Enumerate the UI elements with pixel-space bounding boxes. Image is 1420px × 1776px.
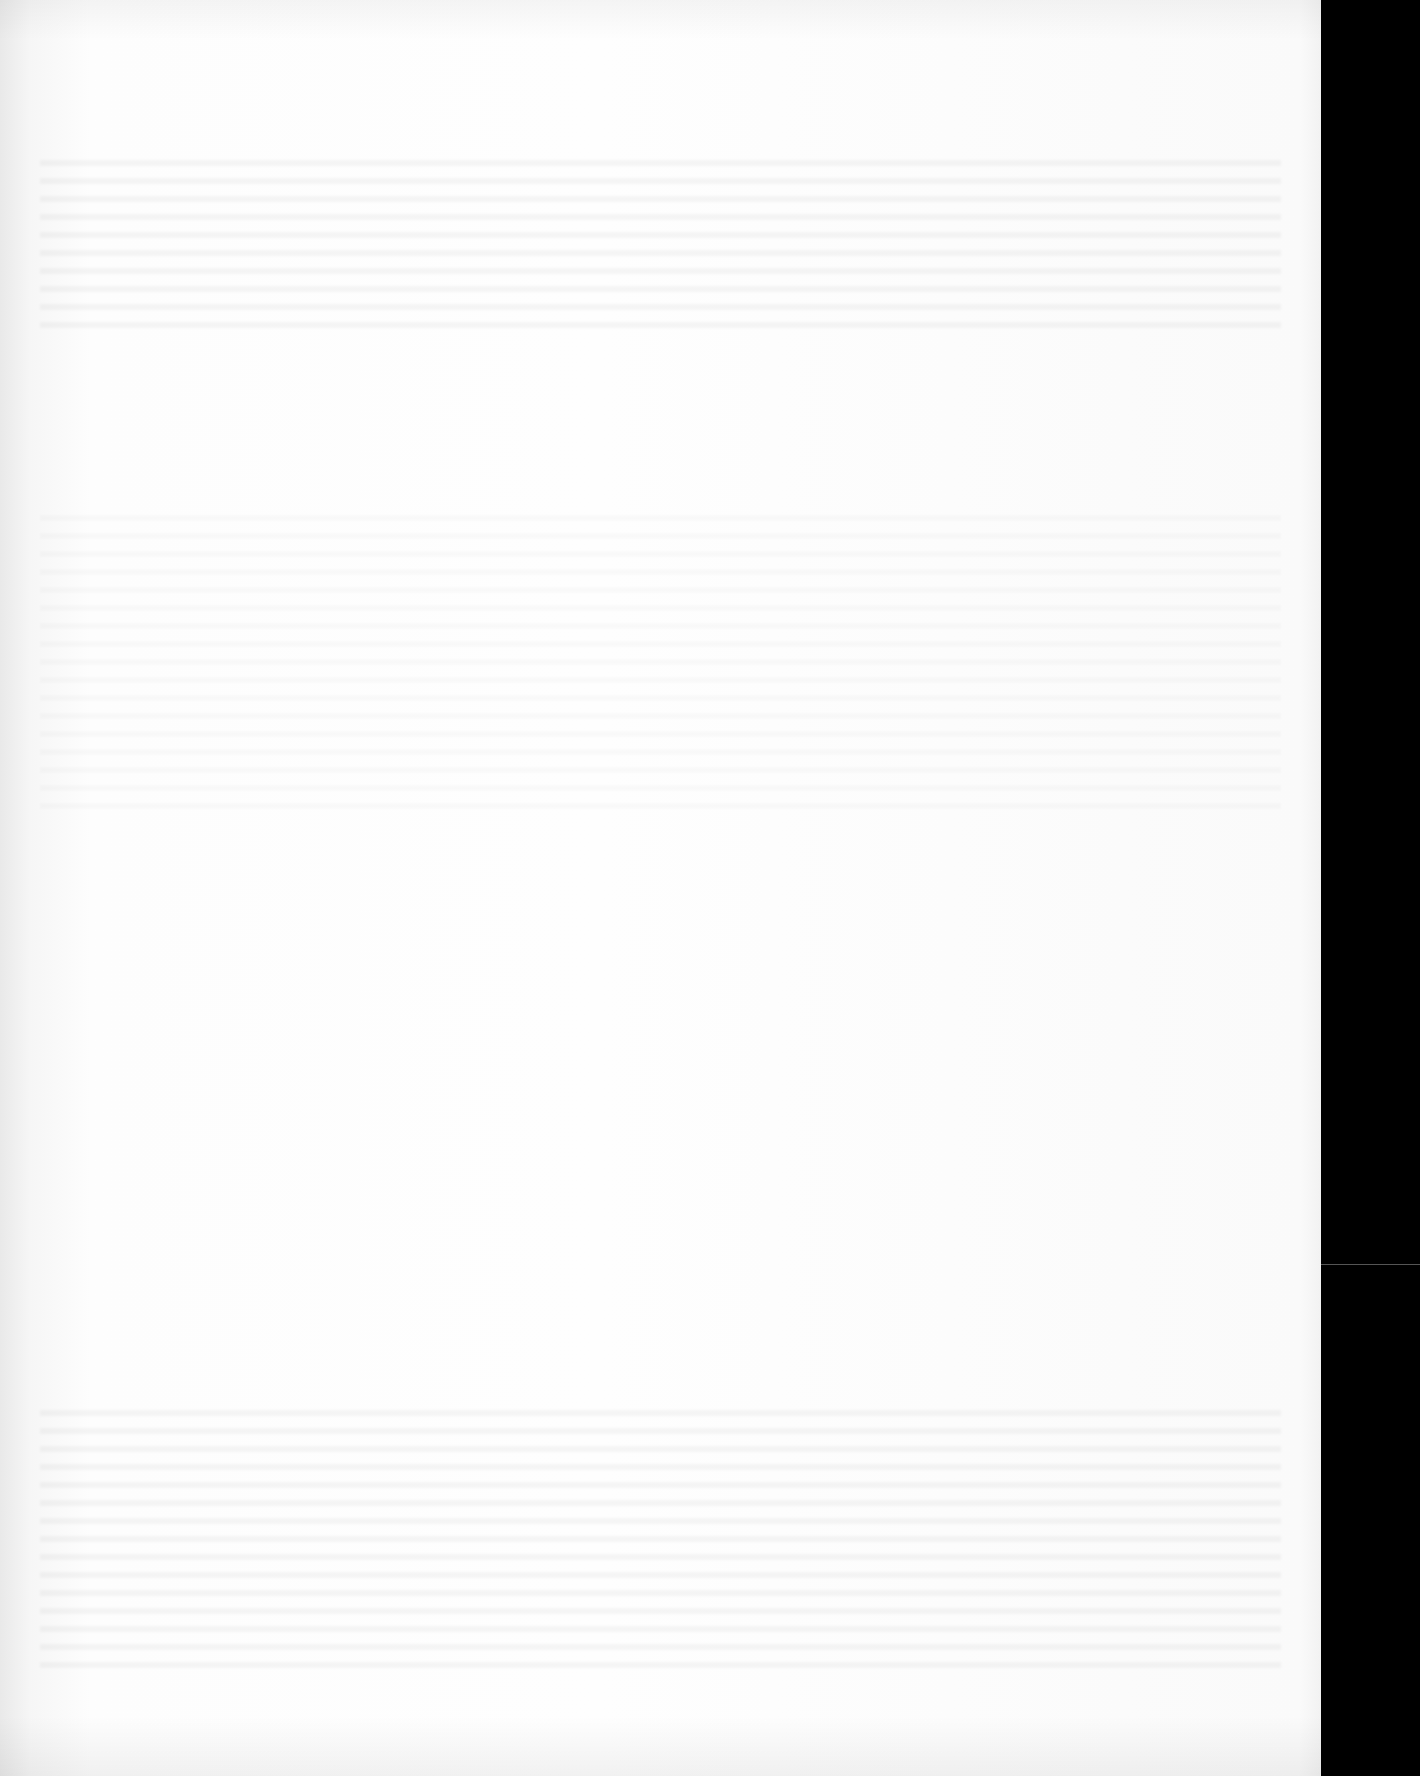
- blank-page: [0, 0, 1321, 1776]
- show-through-text-middle: [40, 515, 1281, 815]
- scanner-border-line: [1321, 1264, 1420, 1265]
- show-through-text-top: [40, 160, 1281, 340]
- show-through-text-bottom: [40, 1410, 1281, 1680]
